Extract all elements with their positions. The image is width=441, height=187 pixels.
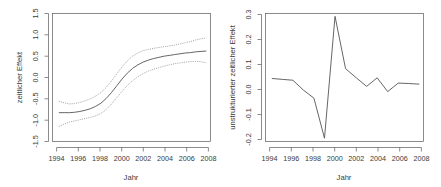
- right-plot-svg: 0.3 0.2 0.1 0.0 -0.1 -0.2 unstrukturiert…: [220, 0, 441, 187]
- right-xtick-label-2: 1998: [305, 154, 321, 163]
- right-y-axis-title: unstrukturierter zeitlicher Effekt: [228, 24, 237, 129]
- right-ytick-label-4: 0.2: [244, 35, 253, 45]
- right-ytick-label-3: 0.1: [244, 60, 253, 70]
- left-ytick-label-6: 1.5: [31, 9, 40, 19]
- chart-panel-left: 1.5 1.0 0.5 0.0 -0.5 -1.0 -1.5 zeitliche…: [0, 0, 220, 187]
- right-xtick-label-3: 2000: [327, 154, 343, 163]
- left-ytick-label-0: -1.5: [31, 135, 40, 147]
- left-plot-svg: 1.5 1.0 0.5 0.0 -0.5 -1.0 -1.5 zeitliche…: [0, 0, 220, 187]
- left-y-axis: 1.5 1.0 0.5 0.0 -0.5 -1.0 -1.5 zeitliche…: [15, 9, 49, 148]
- left-ytick-label-1: -1.0: [31, 114, 40, 126]
- left-series-group: [59, 38, 206, 127]
- series-line-0: [59, 51, 206, 113]
- left-ytick-label-2: -0.5: [31, 93, 40, 105]
- left-xtick-label-1: 1996: [70, 154, 86, 163]
- right-x-axis-title: Jahr: [337, 173, 352, 182]
- right-xtick-label-6: 2006: [392, 154, 408, 163]
- figure-canvas: 1.5 1.0 0.5 0.0 -0.5 -1.0 -1.5 zeitliche…: [0, 0, 441, 187]
- left-ytick-label-3: 0.0: [31, 73, 40, 83]
- left-xtick-label-2: 1998: [92, 154, 108, 163]
- left-x-axis-title: Jahr: [124, 173, 139, 182]
- right-ytick-label-0: -0.2: [244, 133, 253, 145]
- left-xtick-label-6: 2006: [179, 154, 195, 163]
- right-plot-frame: [266, 14, 424, 142]
- series-line-2: [59, 61, 206, 126]
- left-xtick-label-4: 2002: [135, 154, 151, 163]
- right-y-axis: 0.3 0.2 0.1 0.0 -0.1 -0.2 unstrukturiert…: [228, 10, 262, 146]
- right-series-group: [272, 16, 419, 138]
- right-ytick-label-2: 0.0: [244, 85, 253, 95]
- left-xtick-label-3: 2000: [114, 154, 130, 163]
- left-x-axis: 1994 1996 1998 2000 2002 2004 2006 2008 …: [49, 148, 217, 183]
- right-xtick-label-1: 1996: [283, 154, 299, 163]
- left-xtick-label-5: 2004: [157, 154, 173, 163]
- right-xtick-label-0: 1994: [262, 154, 278, 163]
- right-ytick-label-5: 0.3: [244, 10, 253, 20]
- left-ytick-label-4: 0.5: [31, 51, 40, 61]
- left-ytick-label-5: 1.0: [31, 30, 40, 40]
- series-line-1: [59, 38, 206, 104]
- right-xtick-label-7: 2008: [413, 154, 429, 163]
- left-xtick-label-7: 2008: [200, 154, 216, 163]
- left-y-axis-title: zeitlicher Effekt: [15, 51, 24, 103]
- left-xtick-label-0: 1994: [49, 154, 65, 163]
- series-line-0: [272, 16, 419, 138]
- left-plot-frame: [53, 14, 211, 142]
- right-xtick-label-4: 2002: [348, 154, 364, 163]
- right-x-axis: 1994 1996 1998 2000 2002 2004 2006 2008 …: [262, 148, 430, 183]
- chart-panel-right: 0.3 0.2 0.1 0.0 -0.1 -0.2 unstrukturiert…: [220, 0, 441, 187]
- right-ytick-label-1: -0.1: [244, 108, 253, 120]
- right-xtick-label-5: 2004: [370, 154, 386, 163]
